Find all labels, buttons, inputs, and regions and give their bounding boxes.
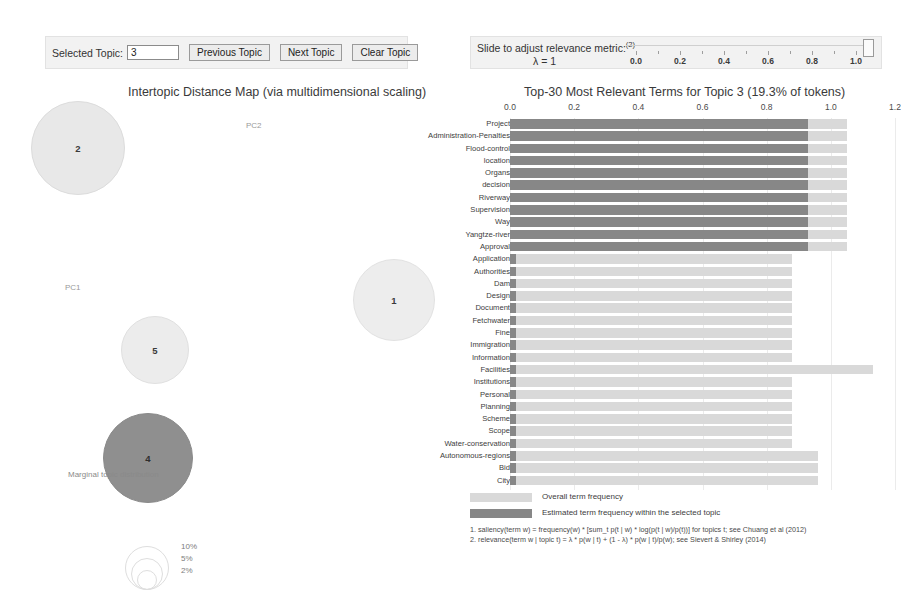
term-label[interactable]: Personal [360, 389, 510, 400]
term-label[interactable]: Facilities [360, 364, 510, 375]
top-terms-title: Top-30 Most Relevant Terms for Topic 3 (… [524, 85, 845, 99]
term-label[interactable]: City [360, 475, 510, 486]
relevance-slider-track[interactable] [626, 45, 873, 49]
bar-topic-frequency [510, 365, 516, 375]
slider-tick [768, 51, 769, 55]
bar-overall-frequency [510, 340, 792, 350]
term-bar-row[interactable]: Fetchwater [440, 315, 895, 327]
term-bar-track [510, 377, 895, 387]
term-label[interactable]: Institutions [360, 376, 510, 387]
term-bar-row[interactable]: Fine [440, 327, 895, 339]
term-label[interactable]: Autonomous-regions [360, 450, 510, 461]
bar-topic-frequency [510, 303, 516, 313]
topic-bubble-5[interactable]: 5 [121, 316, 189, 384]
term-label[interactable]: Supervision [360, 204, 510, 215]
term-label[interactable]: Authorities [360, 266, 510, 277]
term-bar-row[interactable]: Scope [440, 425, 895, 437]
term-bar-row[interactable]: Supervision [440, 204, 895, 216]
bar-overall-frequency [510, 328, 792, 338]
term-bar-row[interactable]: Way [440, 216, 895, 228]
x-axis-tick-label: 0.6 [697, 102, 709, 112]
term-label[interactable]: Design [360, 290, 510, 301]
term-bar-row[interactable]: Project [440, 118, 895, 130]
term-bar-row[interactable]: Institutions [440, 376, 895, 388]
term-label[interactable]: decision [360, 179, 510, 190]
topic-bubble-2[interactable]: 2 [31, 101, 125, 195]
previous-topic-button[interactable]: Previous Topic [189, 44, 270, 61]
bar-overall-frequency [510, 426, 792, 436]
term-bar-row[interactable]: decision [440, 179, 895, 191]
term-bar-track [510, 131, 895, 141]
term-label[interactable]: Scope [360, 425, 510, 436]
next-topic-button[interactable]: Next Topic [280, 44, 343, 61]
slider-minor-tick [702, 51, 703, 54]
term-label[interactable]: Administration-Penalties [360, 130, 510, 141]
legend-label-overall: Overall term frequency [542, 492, 623, 501]
term-label[interactable]: Document [360, 302, 510, 313]
term-bar-row[interactable]: Personal [440, 389, 895, 401]
term-bar-row[interactable]: Administration-Penalties [440, 130, 895, 142]
term-bar-row[interactable]: Facilities [440, 364, 895, 376]
term-label[interactable]: Water-conservation [360, 438, 510, 449]
term-label[interactable]: Fetchwater [360, 315, 510, 326]
term-label[interactable]: Immigration [360, 339, 510, 350]
term-label[interactable]: Approval [360, 241, 510, 252]
term-bar-row[interactable]: Approval [440, 241, 895, 253]
bar-chart-legend: Overall term frequency Estimated term fr… [470, 492, 895, 552]
topic-bubble-label: 4 [145, 453, 150, 464]
term-label[interactable]: Application [360, 253, 510, 264]
selected-topic-input[interactable] [127, 45, 179, 60]
term-bar-row[interactable]: Riverway [440, 192, 895, 204]
term-bar-row[interactable]: Information [440, 352, 895, 364]
x-axis-tick-label: 1.0 [825, 102, 837, 112]
term-bar-row[interactable]: Bid [440, 462, 895, 474]
bar-overall-frequency [510, 303, 792, 313]
term-label[interactable]: Bid [360, 462, 510, 473]
term-label[interactable]: Way [360, 216, 510, 227]
term-bar-row[interactable]: Planning [440, 401, 895, 413]
slider-tick [856, 51, 857, 55]
term-bar-row[interactable]: Document [440, 302, 895, 314]
term-label[interactable]: Scheme [360, 413, 510, 424]
bar-chart-rows: ProjectAdministration-PenaltiesFlood-con… [440, 118, 895, 487]
term-bar-row[interactable]: City [440, 475, 895, 487]
term-bar-row[interactable]: Authorities [440, 266, 895, 278]
term-bar-row[interactable]: Organs [440, 167, 895, 179]
term-label[interactable]: Yangtze-river [360, 229, 510, 240]
term-bar-row[interactable]: Yangtze-river [440, 229, 895, 241]
term-bar-row[interactable]: Scheme [440, 413, 895, 425]
term-bar-row[interactable]: Design [440, 290, 895, 302]
term-bar-row[interactable]: Water-conservation [440, 438, 895, 450]
term-label[interactable]: Riverway [360, 192, 510, 203]
term-bar-row[interactable]: Autonomous-regions [440, 450, 895, 462]
term-label[interactable]: Project [360, 118, 510, 129]
term-bar-track [510, 353, 895, 363]
x-axis-tick-label: 0.2 [568, 102, 580, 112]
bar-topic-frequency [510, 180, 808, 190]
term-bar-track [510, 340, 895, 350]
term-label[interactable]: Organs [360, 167, 510, 178]
clear-topic-button[interactable]: Clear Topic [352, 44, 418, 61]
term-label[interactable]: Fine [360, 327, 510, 338]
term-bar-track [510, 180, 895, 190]
bar-overall-frequency [510, 476, 818, 486]
x-axis-tick-label: 0.0 [504, 102, 516, 112]
x-axis-tick-label: 1.2 [889, 102, 901, 112]
term-label[interactable]: Dam [360, 278, 510, 289]
term-bar-track [510, 303, 895, 313]
term-label[interactable]: Information [360, 352, 510, 363]
term-label[interactable]: Planning [360, 401, 510, 412]
term-label[interactable]: location [360, 155, 510, 166]
term-bar-row[interactable]: Application [440, 253, 895, 265]
term-bar-row[interactable]: Dam [440, 278, 895, 290]
bar-topic-frequency [510, 340, 516, 350]
bar-topic-frequency [510, 217, 808, 227]
intertopic-map-title: Intertopic Distance Map (via multidimens… [128, 85, 426, 99]
term-bar-row[interactable]: Flood-control [440, 143, 895, 155]
bar-chart-x-axis: 0.00.20.40.60.81.01.2 [440, 100, 895, 120]
term-bar-track [510, 291, 895, 301]
term-bar-row[interactable]: location [440, 155, 895, 167]
bar-overall-frequency [510, 279, 792, 289]
term-bar-row[interactable]: Immigration [440, 339, 895, 351]
term-label[interactable]: Flood-control [360, 143, 510, 154]
